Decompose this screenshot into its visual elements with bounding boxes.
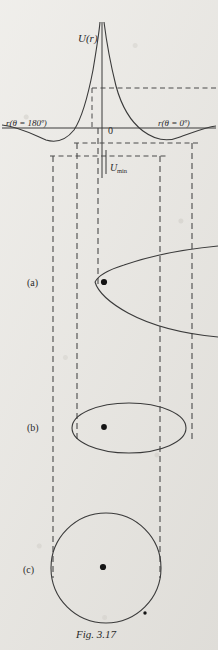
potential-plot: [2, 22, 216, 178]
origin-label: 0: [108, 125, 113, 136]
left-apsis-label: r(θ = 180º): [6, 118, 47, 128]
panel-label-c: (c): [23, 564, 34, 576]
figure-caption: Fig. 3.17: [75, 628, 117, 640]
orbit-ellipse: [72, 403, 186, 453]
circle-path: [51, 513, 161, 623]
u-axis-label: U(r): [78, 32, 98, 45]
umin-label-sub: min: [117, 167, 128, 174]
ellipse-focus-dot: [101, 424, 107, 430]
orbit-circle: [51, 513, 161, 623]
hyperbola-upper-branch: [95, 246, 218, 282]
umin-label: U min: [110, 162, 128, 174]
figure-canvas: U(r) 0 U min r(θ = 180º) r(θ = 0º) (a) (…: [0, 0, 218, 650]
hyperbola-lower-branch: [95, 282, 218, 337]
panel-label-b: (b): [27, 422, 39, 434]
panel-label-a: (a): [27, 277, 38, 289]
right-apsis-label: r(θ = 0º): [158, 118, 190, 128]
ellipse-path: [72, 403, 186, 453]
circle-center-dot: [100, 564, 106, 570]
projection-lines: [53, 128, 192, 578]
figure-3-17: U(r) 0 U min r(θ = 180º) r(θ = 0º) (a) (…: [0, 0, 218, 650]
circle-stray-dot: [143, 611, 146, 614]
orbit-hyperbola: [95, 246, 218, 337]
hyperbola-focus-dot: [101, 279, 107, 285]
